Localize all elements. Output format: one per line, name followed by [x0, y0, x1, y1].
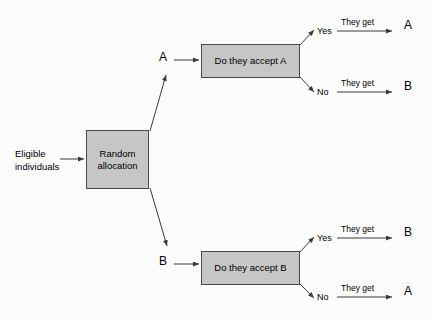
- connector-label-1: They get: [341, 16, 374, 28]
- outcome-label-1: A: [404, 19, 412, 31]
- connector-label-3: They get: [341, 223, 374, 235]
- connector-label-2: They get: [341, 77, 374, 89]
- branch-answer-a-no: No: [317, 86, 329, 98]
- arrow-decision-b-yes: [300, 237, 314, 252]
- outcome-label-4: A: [404, 285, 412, 297]
- arrow-decision-a-no: [300, 77, 314, 92]
- branch-answer-a-yes: Yes: [317, 25, 332, 37]
- arm-label-a: A: [159, 51, 167, 63]
- random-allocation-box: Random allocation: [86, 130, 149, 189]
- arm-label-b: B: [159, 255, 167, 267]
- arrow-decision-a-yes: [300, 30, 314, 45]
- entry-label: Eligible individuals: [15, 147, 77, 173]
- branch-answer-b-yes: Yes: [317, 232, 332, 244]
- decision-box-accept-a: Do they accept A: [201, 44, 300, 78]
- outcome-label-3: B: [404, 226, 412, 238]
- connector-label-4: They get: [341, 282, 374, 294]
- arrow-allocation-to-arm-a: [150, 75, 166, 131]
- outcome-label-2: B: [404, 80, 412, 92]
- arrow-allocation-to-arm-b: [150, 188, 167, 246]
- diagram-canvas: Eligible individuals Random allocation A…: [0, 0, 432, 319]
- branch-answer-b-no: No: [317, 291, 329, 303]
- decision-box-accept-b: Do they accept B: [201, 251, 300, 285]
- arrow-decision-b-no: [300, 284, 314, 298]
